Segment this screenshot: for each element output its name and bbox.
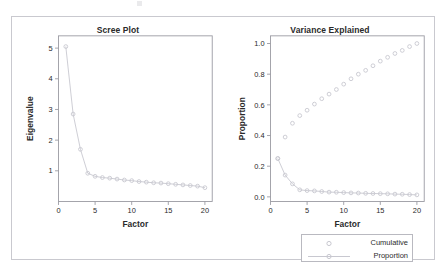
- svg-text:Factor: Factor: [122, 219, 148, 229]
- figure-canvas: Scree Plot 0510152012345FactorEigenvalue…: [0, 0, 447, 275]
- svg-text:0: 0: [268, 206, 272, 215]
- legend-entry-cumulative: Cumulative: [302, 236, 412, 249]
- scree-plot-svg: 0510152012345FactorEigenvalue: [12, 17, 224, 259]
- svg-text:Factor: Factor: [334, 219, 360, 229]
- svg-text:15: 15: [376, 206, 384, 215]
- legend: Cumulative Proportion: [301, 234, 413, 262]
- legend-entry-proportion: Proportion: [302, 249, 412, 262]
- panel-scree-plot: Scree Plot 0510152012345FactorEigenvalue: [12, 17, 224, 259]
- svg-text:1.0: 1.0: [254, 39, 264, 48]
- svg-text:0.2: 0.2: [254, 162, 264, 171]
- top-artifact-mark: [137, 1, 142, 6]
- svg-text:5: 5: [48, 44, 52, 53]
- svg-text:5: 5: [305, 206, 309, 215]
- svg-text:0.4: 0.4: [254, 131, 264, 140]
- svg-text:3: 3: [48, 105, 52, 114]
- svg-text:4: 4: [48, 74, 52, 83]
- legend-label-proportion: Proportion: [356, 251, 412, 260]
- legend-label-cumulative: Cumulative: [356, 238, 412, 247]
- svg-text:Proportion: Proportion: [237, 97, 247, 140]
- svg-text:0.8: 0.8: [254, 70, 264, 79]
- svg-text:0.0: 0.0: [254, 193, 264, 202]
- svg-text:2: 2: [48, 136, 52, 145]
- svg-text:0: 0: [56, 206, 60, 215]
- legend-key-cumulative: [302, 236, 356, 249]
- panel-variance-explained: Variance Explained 051015200.00.20.40.60…: [224, 17, 436, 259]
- svg-text:1: 1: [48, 166, 52, 175]
- plot-frame: Scree Plot 0510152012345FactorEigenvalue…: [11, 16, 435, 260]
- svg-text:0.6: 0.6: [254, 101, 264, 110]
- svg-text:20: 20: [201, 206, 209, 215]
- svg-text:Eigenvalue: Eigenvalue: [25, 96, 35, 141]
- legend-key-proportion: [302, 249, 356, 262]
- svg-text:20: 20: [413, 206, 421, 215]
- svg-text:5: 5: [93, 206, 97, 215]
- svg-text:10: 10: [128, 206, 136, 215]
- variance-explained-svg: 051015200.00.20.40.60.81.0FactorProporti…: [224, 17, 436, 259]
- svg-text:10: 10: [340, 206, 348, 215]
- svg-text:15: 15: [164, 206, 172, 215]
